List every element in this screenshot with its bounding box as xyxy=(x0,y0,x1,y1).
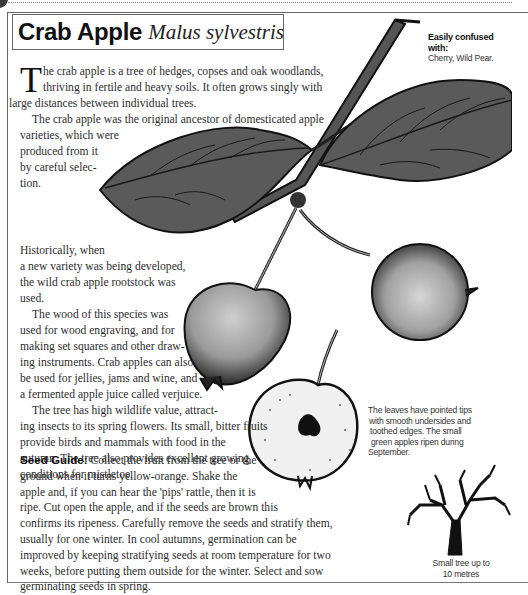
tree-caption-line: 10 metres xyxy=(420,569,502,580)
history-line: The wood of this species was xyxy=(32,308,168,321)
history-line: ing insects to its spring flowers. Its s… xyxy=(20,420,268,433)
history-line: used. xyxy=(20,292,44,305)
leaf-note: The leaves have pointed tips with smooth… xyxy=(368,405,472,458)
seed-guide-line: weeks, before putting them outside for t… xyxy=(20,565,323,578)
confusion-heading: Easily confused with: xyxy=(428,32,494,53)
history-line: making set squares and other draw- xyxy=(20,340,185,353)
seed-guide-line: improved by keeping stratifying seeds at… xyxy=(20,549,331,562)
confusion-note: Easily confused with: Cherry, Wild Pear. xyxy=(428,32,512,64)
seed-guide-label: Seed Guide: xyxy=(20,453,88,466)
history-line: the wild crab apple rootstock was xyxy=(20,276,176,289)
confusion-species: Cherry, Wild Pear. xyxy=(428,53,512,64)
history-line: The tree has high wildlife value, attrac… xyxy=(32,404,218,417)
dropcap: T xyxy=(20,67,42,94)
intro-line: thriving in fertile and heavy soils. It … xyxy=(43,81,322,94)
leaf-note-line: with smooth undersides and xyxy=(368,416,472,427)
intro-line: varieties, which were xyxy=(20,129,119,142)
leaf-note-line: toothed edges. The small xyxy=(368,426,472,437)
history-line: used for wood engraving, and for xyxy=(20,324,175,337)
seed-guide-line: ground when it turns yellow-orange. Shak… xyxy=(20,470,237,483)
latin-name: Malus sylvestris xyxy=(148,20,284,45)
title-box: Crab Apple Malus sylvestris xyxy=(12,14,284,50)
seed-guide-line: ripe. Cut open the apple, and if the see… xyxy=(20,501,278,514)
seed-guide-line: usually for one winter. In cool autumns,… xyxy=(20,533,297,546)
leaf-note-line: green apples ripen during xyxy=(368,437,472,448)
intro-line: he crab apple is a tree of hedges, copse… xyxy=(43,65,323,78)
intro-line: large distances between individual trees… xyxy=(9,97,196,110)
history-line: a fermented apple juice called verjuice. xyxy=(20,388,202,401)
history-line: provide birds and mammals with food in t… xyxy=(20,436,226,449)
intro-line: The crab apple was the original ancestor… xyxy=(32,113,324,126)
history-line: ing instruments. Crab apples can also xyxy=(20,356,193,369)
history-line: Historically, when xyxy=(20,244,105,257)
intro-line: produced from it xyxy=(20,145,98,158)
leaf-note-line: The leaves have pointed tips xyxy=(368,405,472,416)
tree-caption-line: Small tree up to xyxy=(420,558,502,569)
tree-silhouette-icon xyxy=(408,465,510,555)
intro-text: T he crab apple is a tree of hedges, cop… xyxy=(20,64,340,192)
seed-guide-line: confirms its ripeness. Carefully remove … xyxy=(20,517,333,530)
seed-guide-line: apple and, if you can hear the 'pips' ra… xyxy=(20,486,256,499)
intro-line: tion. xyxy=(20,177,41,190)
history-line: a new variety was being developed, xyxy=(20,260,185,273)
seed-guide-line: germinating seeds in spring. xyxy=(20,580,151,593)
seed-guide-line: Collect the fruit from the tree or the xyxy=(88,454,257,467)
tree-caption: Small tree up to 10 metres xyxy=(420,558,502,579)
seed-guide: Seed Guide: Collect the fruit from the t… xyxy=(20,452,360,595)
page-title: Crab Apple xyxy=(18,18,142,46)
intro-line: by careful selec- xyxy=(20,161,97,174)
history-text: Historically, when a new variety was bei… xyxy=(20,243,290,483)
leaf-note-line: September. xyxy=(368,447,472,458)
history-line: be used for jellies, jams and wine, and xyxy=(20,372,197,385)
